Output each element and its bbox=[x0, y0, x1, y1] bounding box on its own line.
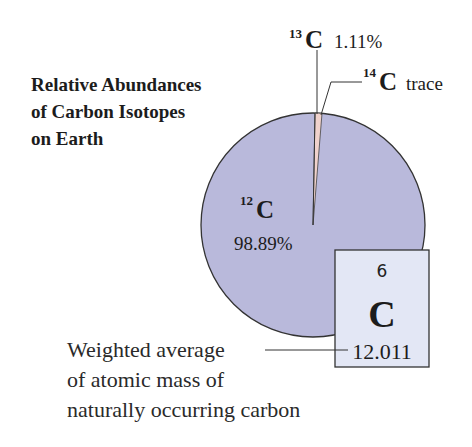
atomic-mass: 12.011 bbox=[352, 339, 412, 364]
caption-line-1: Weighted average bbox=[67, 337, 225, 362]
chart-title: Relative Abundances of Carbon Isotopes o… bbox=[31, 74, 202, 149]
mass-number-14: 14 bbox=[363, 65, 377, 80]
symbol-14c: C bbox=[379, 68, 397, 95]
atomic-number: 6 bbox=[377, 261, 388, 281]
element-box-carbon: 6 C 12.011 bbox=[335, 250, 429, 367]
caption-line-3: naturally occurring carbon bbox=[67, 397, 300, 422]
isotope-pie-figure: Relative Abundances of Carbon Isotopes o… bbox=[0, 0, 472, 447]
value-12c: 98.89% bbox=[234, 233, 293, 254]
label-13c: 13 C 1.11% bbox=[289, 26, 383, 53]
value-14c: trace bbox=[406, 73, 443, 94]
title-line-1: Relative Abundances bbox=[31, 74, 202, 95]
symbol-12c: C bbox=[256, 196, 274, 223]
title-line-2: of Carbon Isotopes bbox=[31, 101, 185, 122]
leader-line-14c bbox=[321, 82, 362, 115]
mass-number-13: 13 bbox=[289, 26, 303, 41]
mass-number-12: 12 bbox=[240, 193, 253, 208]
caption-line-2: of atomic mass of bbox=[67, 367, 225, 392]
element-symbol: C bbox=[368, 293, 395, 335]
title-line-3: on Earth bbox=[31, 128, 104, 149]
label-14c: 14 C trace bbox=[363, 65, 443, 95]
symbol-13c: C bbox=[305, 26, 323, 53]
value-13c: 1.11% bbox=[334, 31, 383, 52]
